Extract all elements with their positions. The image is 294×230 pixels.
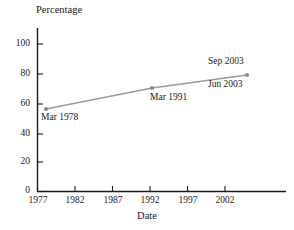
x-tick-label-1987: 1987 xyxy=(93,195,133,205)
x-tick-label-1977: 1977 xyxy=(18,195,58,205)
y-tick-label-0: 0 xyxy=(4,185,30,195)
x-tick-label-2002: 2002 xyxy=(205,195,245,205)
x-tick-label-1997: 1997 xyxy=(168,195,208,205)
data-label-mar-1991: Mar 1991 xyxy=(150,92,187,102)
data-label-sep-2003: Sep 2003 xyxy=(208,56,244,66)
data-point-marker[interactable] xyxy=(44,107,48,111)
x-axis-ticks xyxy=(38,186,226,192)
x-tick-label-1992: 1992 xyxy=(130,195,170,205)
x-axis-title: Date xyxy=(0,210,294,221)
data-point-marker[interactable] xyxy=(150,86,154,90)
data-point-marker[interactable] xyxy=(245,73,249,77)
y-tick-label-80: 80 xyxy=(4,68,30,78)
x-tick-label-1982: 1982 xyxy=(55,195,95,205)
y-tick-label-60: 60 xyxy=(4,98,30,108)
y-tick-label-40: 40 xyxy=(4,128,30,138)
data-label-mar-1978: Mar 1978 xyxy=(41,112,78,122)
y-tick-label-100: 100 xyxy=(4,38,30,48)
data-label-jun-2003: Jun 2003 xyxy=(208,79,243,89)
chart-container: Percentage 100 80 xyxy=(0,0,294,230)
y-tick-label-20: 20 xyxy=(4,156,30,166)
